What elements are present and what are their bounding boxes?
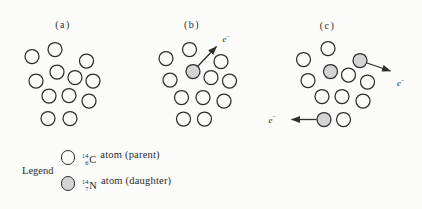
- parent-atom: [163, 73, 177, 87]
- legend-item-daughter-label: 147N atom (daughter): [82, 175, 171, 193]
- parent-atom: [29, 74, 43, 88]
- parent-atom: [82, 94, 96, 108]
- parent-atom: [86, 74, 100, 88]
- parent-atom: [361, 75, 375, 89]
- panel-c-label: (c): [320, 20, 336, 32]
- parent-atom: [42, 89, 56, 103]
- panel-b-label: (b): [184, 19, 200, 31]
- parent-atom: [321, 42, 335, 56]
- parent-atom: [48, 43, 62, 57]
- panel-a: (a): [25, 19, 100, 126]
- daughter-atom-icon: [61, 176, 75, 190]
- parent-atom: [177, 112, 191, 126]
- parent-atom: [159, 52, 173, 66]
- legend-parent-text: atom (parent): [100, 149, 159, 160]
- parent-atom: [342, 68, 356, 82]
- parent-atom: [223, 74, 237, 88]
- parent-atom: [50, 65, 64, 79]
- parent-atom: [214, 55, 228, 69]
- parent-atom: [337, 113, 351, 127]
- atomic-number: 6: [85, 160, 88, 167]
- parent-atom: [62, 89, 76, 103]
- legend-rows: 146C atom (parent) 147N atom (daughter): [61, 150, 172, 191]
- parent-atom: [41, 112, 55, 126]
- parent-atom: [63, 112, 77, 126]
- parent-atom: [217, 94, 231, 108]
- atomic-number: 7: [85, 186, 88, 193]
- daughter-atom: [324, 65, 338, 79]
- parent-atom: [198, 112, 212, 126]
- daughter-atom: [186, 65, 200, 79]
- parent-atom: [80, 54, 94, 68]
- element-symbol: C: [89, 154, 96, 165]
- electron-arrow: [367, 63, 391, 71]
- parent-atom: [68, 71, 82, 85]
- parent-atom: [196, 91, 210, 105]
- parent-atom: [204, 71, 218, 85]
- legend-item-parent-label: 146C atom (parent): [82, 149, 160, 167]
- legend-item-parent: 146C atom (parent): [61, 150, 172, 165]
- panel-a-label: (a): [55, 19, 71, 31]
- electron-label: e−: [397, 77, 405, 89]
- daughter-atom: [353, 54, 367, 68]
- parent-atom: [301, 74, 315, 88]
- parent-atom-icon: [61, 150, 75, 164]
- parent-atom: [175, 91, 189, 105]
- isotope-notation-n14: 147N: [82, 179, 97, 193]
- parent-atom: [297, 53, 311, 67]
- parent-atom: [183, 43, 197, 57]
- element-symbol: N: [89, 180, 97, 191]
- legend-title: Legend: [22, 165, 54, 176]
- parent-atom: [335, 90, 349, 104]
- panel-c: (c)e−e−: [269, 20, 406, 127]
- parent-atom: [25, 50, 39, 64]
- decay-diagram-canvas: (a)(b)e−(c)e−e− Legend 146C atom (parent…: [0, 0, 422, 209]
- parent-atom: [315, 90, 329, 104]
- legend-daughter-text: atom (daughter): [101, 175, 171, 186]
- electron-label: e−: [223, 33, 231, 45]
- isotope-notation-c14: 146C: [82, 153, 97, 167]
- electron-label: e−: [269, 113, 277, 125]
- legend: Legend 146C atom (parent) 147N atom (dau…: [22, 150, 171, 191]
- daughter-atom: [317, 113, 331, 127]
- legend-item-daughter: 147N atom (daughter): [61, 176, 172, 191]
- panel-b: (b)e−: [159, 19, 237, 127]
- parent-atom: [356, 94, 370, 108]
